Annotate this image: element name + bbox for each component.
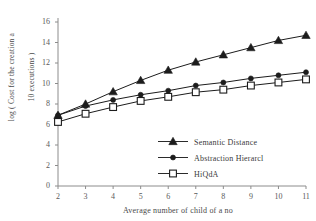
data-point-marker-circle	[56, 113, 61, 118]
legend: Semantic DistanceAbstraction HierarclHiQ…	[158, 134, 264, 182]
y-axis-tick-label: 14	[30, 38, 50, 47]
legend-marker-glyph	[158, 167, 188, 181]
y-axis-tick-label: 10	[30, 79, 50, 88]
data-point-marker-square	[303, 76, 310, 83]
legend-item[interactable]: HiQdA	[158, 166, 264, 182]
data-point-marker-triangle	[109, 88, 117, 95]
legend-marker-glyph	[158, 151, 188, 165]
legend-label: HiQdA	[194, 170, 219, 179]
data-point-marker-circle	[276, 73, 281, 78]
series-layer	[54, 31, 310, 125]
data-point-marker-circle	[166, 88, 171, 93]
data-point-marker-square	[192, 89, 199, 96]
y-axis-title-line1: log ( Cost for the creation a	[7, 0, 17, 157]
data-point-marker-circle	[171, 155, 176, 160]
x-axis-title: Average number of child of a no	[40, 206, 316, 215]
data-point-marker-circle	[83, 104, 88, 109]
data-point-marker-square	[82, 110, 89, 117]
data-point-marker-circle	[138, 92, 143, 97]
x-axis-tick-label: 10	[268, 192, 288, 201]
y-axis-tick-label: 12	[30, 58, 50, 67]
data-point-marker-triangle	[169, 137, 177, 144]
y-axis-tick-label: 2	[30, 161, 50, 170]
series-line	[58, 79, 306, 122]
legend-item[interactable]: Semantic Distance	[158, 134, 264, 150]
series-2	[56, 70, 309, 118]
y-axis-tick-label: 16	[30, 17, 50, 26]
data-point-marker-circle	[193, 83, 198, 88]
x-axis-tick-label: 5	[131, 192, 151, 201]
x-axis-tick-label: 8	[213, 192, 233, 201]
data-point-marker-square	[165, 93, 172, 100]
legend-marker-icon	[158, 135, 188, 149]
data-point-marker-square	[110, 104, 117, 111]
y-axis-tick-label: 4	[30, 140, 50, 149]
series-line	[58, 72, 306, 115]
data-point-marker-triangle	[302, 31, 310, 38]
data-point-marker-circle	[248, 76, 253, 81]
x-axis-tick-label: 11	[296, 192, 316, 201]
data-point-marker-square	[137, 98, 144, 105]
data-point-marker-circle	[304, 70, 309, 75]
y-axis-tick-label: 8	[30, 99, 50, 108]
series-1	[54, 31, 310, 118]
data-point-marker-circle	[221, 80, 226, 85]
legend-label: Semantic Distance	[194, 138, 257, 147]
x-axis-tick-label: 6	[158, 192, 178, 201]
legend-marker-icon	[158, 151, 188, 165]
legend-marker-icon	[158, 167, 188, 181]
x-axis-tick-label: 9	[241, 192, 261, 201]
data-point-marker-square	[275, 79, 282, 86]
x-axis-tick-label: 4	[103, 192, 123, 201]
y-axis-tick-label: 0	[30, 181, 50, 190]
data-point-marker-triangle	[136, 76, 144, 83]
x-axis-tick-label: 2	[48, 192, 68, 201]
chart-container: log ( Cost for the creation a 10 executi…	[0, 0, 316, 221]
data-point-marker-square	[220, 86, 227, 93]
data-point-marker-square	[55, 119, 62, 126]
data-point-marker-square	[170, 170, 177, 177]
legend-label: Abstraction Hierarcl	[194, 154, 264, 163]
legend-item[interactable]: Abstraction Hierarcl	[158, 150, 264, 166]
series-line	[58, 35, 306, 115]
y-axis-tick-label: 6	[30, 120, 50, 129]
x-axis-tick-label: 3	[76, 192, 96, 201]
data-point-marker-circle	[111, 97, 116, 102]
x-axis-tick-label: 7	[186, 192, 206, 201]
data-point-marker-square	[247, 82, 254, 89]
legend-marker-glyph	[158, 135, 188, 149]
